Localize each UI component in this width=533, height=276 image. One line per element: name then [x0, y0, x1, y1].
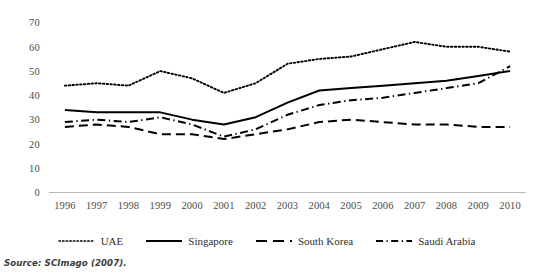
y-tick-20: 20 — [14, 139, 40, 150]
series-line-saudi-arabia — [65, 66, 510, 136]
legend-label-south-korea: South Korea — [298, 235, 353, 247]
source-note: Source: SCImago (2007). — [4, 258, 127, 268]
series-line-uae — [65, 42, 510, 93]
x-tick-2004: 2004 — [303, 199, 335, 212]
y-tick-10: 10 — [14, 163, 40, 174]
x-tick-2009: 2009 — [462, 199, 494, 212]
legend-item-south-korea[interactable]: South Korea — [255, 235, 353, 247]
x-tick-1999: 1999 — [144, 199, 176, 212]
legend-label-saudi-arabia: Saudi Arabia — [418, 235, 475, 247]
y-tick-0: 0 — [14, 187, 40, 198]
y-tick-40: 40 — [14, 90, 40, 101]
legend-swatch-solid-icon — [145, 236, 183, 246]
y-tick-60: 60 — [14, 42, 40, 53]
x-tick-1998: 1998 — [113, 199, 145, 212]
x-tick-2008: 2008 — [431, 199, 463, 212]
legend-label-uae: UAE — [101, 235, 124, 247]
y-tick-30: 30 — [14, 114, 40, 125]
y-tick-50: 50 — [14, 66, 40, 77]
legend-label-singapore: Singapore — [188, 235, 233, 247]
y-tick-70: 70 — [14, 17, 40, 28]
legend-item-uae[interactable]: UAE — [58, 235, 124, 247]
figure-container: 0 10 20 30 40 50 60 70 1996 1997 1998 19… — [0, 0, 533, 276]
legend-swatch-dotted-icon — [58, 236, 96, 246]
line-chart-plot — [0, 0, 533, 230]
legend-item-saudi-arabia[interactable]: Saudi Arabia — [375, 235, 475, 247]
x-tick-2005: 2005 — [335, 199, 367, 212]
x-tick-2007: 2007 — [399, 199, 431, 212]
x-tick-2006: 2006 — [367, 199, 399, 212]
series-layer — [65, 42, 510, 139]
series-line-singapore — [65, 71, 510, 124]
legend-item-singapore[interactable]: Singapore — [145, 235, 233, 247]
x-tick-2010: 2010 — [494, 199, 526, 212]
x-tick-2003: 2003 — [272, 199, 304, 212]
x-tick-2001: 2001 — [208, 199, 240, 212]
x-tick-1996: 1996 — [49, 199, 81, 212]
x-axis-labels: 1996 1997 1998 1999 2000 2001 2002 2003 … — [49, 199, 526, 215]
legend-swatch-dash-dot-icon — [375, 236, 413, 246]
x-tick-1997: 1997 — [81, 199, 113, 212]
legend-swatch-dashed-icon — [255, 236, 293, 246]
x-tick-2000: 2000 — [176, 199, 208, 212]
chart-legend: UAE Singapore South Korea Saudi Arabia — [0, 229, 533, 253]
x-tick-2002: 2002 — [240, 199, 272, 212]
